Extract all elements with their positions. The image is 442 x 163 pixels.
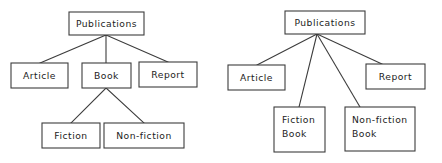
edge-publications-to-article bbox=[40, 35, 106, 63]
node-book-left[interactable]: Book bbox=[82, 63, 131, 88]
node-label-article-left: Article bbox=[23, 70, 56, 81]
right-diagram: Publications Article Report Fiction Book bbox=[228, 11, 425, 152]
node-label-non-fiction-book-line1: Non-fiction bbox=[352, 114, 408, 125]
node-fiction-book-right[interactable]: Fiction Book bbox=[274, 107, 325, 152]
node-label-publications-right: Publications bbox=[294, 17, 355, 28]
edge-book-to-non-fiction bbox=[106, 88, 144, 123]
node-non-fiction-book-right[interactable]: Non-fiction Book bbox=[345, 107, 415, 151]
node-label-publications-left: Publications bbox=[76, 18, 137, 29]
node-report-left[interactable]: Report bbox=[139, 62, 197, 87]
node-label-article-right: Article bbox=[240, 72, 273, 83]
edge-publications-to-article-right bbox=[257, 34, 317, 65]
node-label-fiction-book-line1: Fiction bbox=[282, 114, 315, 125]
node-article-right[interactable]: Article bbox=[228, 65, 285, 90]
node-label-fiction-left: Fiction bbox=[54, 130, 87, 141]
node-article-left[interactable]: Article bbox=[11, 63, 68, 88]
edge-publications-to-report-right bbox=[317, 34, 382, 64]
node-label-report-right: Report bbox=[379, 71, 412, 82]
edge-publications-to-non-fiction-book bbox=[317, 34, 360, 107]
diagram-svg-root: Publications Article Book Report Fiction bbox=[0, 0, 442, 163]
node-publications-left[interactable]: Publications bbox=[69, 12, 144, 35]
node-report-right[interactable]: Report bbox=[366, 64, 425, 89]
node-publications-right[interactable]: Publications bbox=[285, 11, 365, 34]
node-label-non-fiction-left: Non-fiction bbox=[116, 130, 172, 141]
diagram-canvas: Publications Article Book Report Fiction bbox=[0, 0, 442, 163]
node-label-book-left: Book bbox=[94, 70, 119, 81]
edge-publications-to-fiction-book bbox=[299, 34, 317, 107]
node-non-fiction-left[interactable]: Non-fiction bbox=[104, 123, 184, 148]
node-label-report-left: Report bbox=[151, 69, 184, 80]
edge-book-to-fiction bbox=[71, 88, 106, 123]
edge-publications-to-report bbox=[106, 35, 168, 62]
node-label-fiction-book-line2: Book bbox=[282, 128, 307, 139]
node-fiction-left[interactable]: Fiction bbox=[42, 123, 100, 148]
node-label-non-fiction-book-line2: Book bbox=[352, 128, 377, 139]
left-diagram: Publications Article Book Report Fiction bbox=[11, 12, 197, 148]
